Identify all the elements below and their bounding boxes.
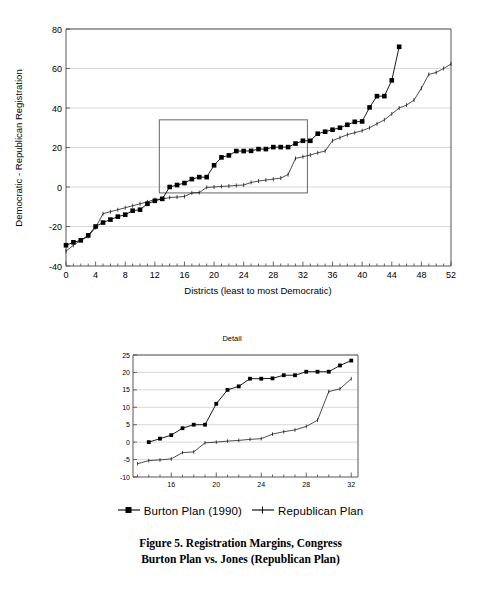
- data-point-marker: [382, 94, 387, 99]
- data-point-marker: [352, 120, 357, 125]
- data-point-marker: [278, 145, 283, 150]
- x-tick-label: 28: [302, 481, 310, 488]
- data-point-marker: [338, 125, 343, 130]
- legend-label-republican: Republican Plan: [278, 505, 363, 517]
- y-tick-label: 15: [122, 386, 130, 393]
- data-point-marker: [330, 127, 335, 132]
- data-point-marker: [167, 185, 172, 190]
- data-point-marker: [271, 376, 275, 380]
- data-point-marker: [212, 163, 217, 168]
- detail-chart: Detail 1620242832-10-50510152025: [0, 325, 481, 500]
- data-point-marker: [169, 433, 173, 437]
- detail-chart-title: Detail: [222, 334, 242, 343]
- x-tick-label: 20: [209, 270, 219, 280]
- x-tick-label: 8: [123, 270, 128, 280]
- data-point-marker: [349, 359, 353, 363]
- data-point-marker: [226, 388, 230, 392]
- x-tick-label: 20: [212, 481, 220, 488]
- detail-chart-svg: Detail 1620242832-10-50510152025: [0, 325, 481, 500]
- chart-legend: Burton Plan (1990) Republican Plan: [0, 505, 481, 517]
- data-point-marker: [147, 440, 151, 444]
- data-point-marker: [123, 212, 128, 217]
- data-point-marker: [286, 145, 291, 150]
- data-point-marker: [181, 426, 185, 430]
- data-point-marker: [389, 78, 394, 83]
- data-point-marker: [234, 149, 239, 154]
- series-line-2: [138, 379, 352, 464]
- data-point-marker: [397, 44, 402, 49]
- y-tick-label: 5: [126, 421, 130, 428]
- y-tick-label: 60: [52, 64, 62, 74]
- data-point-marker: [304, 370, 308, 374]
- data-point-marker: [192, 423, 196, 427]
- x-tick-label: 32: [347, 481, 355, 488]
- data-point-marker: [271, 145, 276, 150]
- data-point-marker: [308, 138, 313, 143]
- data-point-marker: [282, 373, 286, 377]
- x-tick-label: 0: [63, 270, 68, 280]
- square-line-marker-icon: [118, 505, 140, 517]
- data-point-marker: [375, 94, 380, 99]
- y-tick-label: 40: [52, 104, 62, 114]
- y-tick-label: 20: [52, 143, 62, 153]
- data-point-marker: [197, 175, 202, 180]
- y-tick-label: 25: [122, 352, 130, 359]
- x-tick-label: 28: [268, 270, 278, 280]
- data-point-marker: [259, 377, 263, 381]
- data-point-marker: [264, 147, 269, 152]
- data-point-marker: [316, 370, 320, 374]
- series-line-2: [66, 64, 451, 251]
- detail-gridlines: [133, 355, 358, 460]
- x-tick-label: 32: [298, 270, 308, 280]
- data-point-marker: [214, 402, 218, 406]
- detail-plot-frame: [133, 355, 358, 477]
- data-point-marker: [130, 208, 135, 213]
- x-tick-label: 36: [328, 270, 338, 280]
- data-point-marker: [237, 384, 241, 388]
- data-point-marker: [345, 122, 350, 127]
- x-tick-label: 44: [387, 270, 397, 280]
- main-x-axis-label: Districts (least to most Democratic): [184, 285, 331, 296]
- data-point-marker: [158, 437, 162, 441]
- detail-series-group: [138, 359, 354, 466]
- data-point-marker: [64, 243, 69, 248]
- data-point-marker: [338, 364, 342, 368]
- x-tick-label: 16: [179, 270, 189, 280]
- x-tick-label: 4: [93, 270, 98, 280]
- x-tick-label: 24: [239, 270, 249, 280]
- figure-page: 0481216202428323640444852-40-20020406080…: [0, 0, 481, 596]
- y-tick-label: 80: [52, 25, 62, 35]
- data-point-marker: [323, 129, 328, 134]
- main-gridlines: [66, 29, 451, 227]
- data-point-marker: [327, 370, 331, 374]
- detail-inset-rectangle: [159, 120, 307, 193]
- data-point-marker: [293, 141, 298, 146]
- data-point-marker: [301, 138, 306, 143]
- legend-label-burton: Burton Plan (1990): [144, 505, 242, 517]
- data-point-marker: [138, 207, 143, 212]
- data-point-marker: [108, 217, 113, 222]
- x-tick-label: 16: [167, 481, 175, 488]
- data-point-marker: [315, 131, 320, 136]
- caption-line-1: Figure 5. Registration Margins, Congress: [0, 536, 481, 552]
- main-chart: 0481216202428323640444852-40-20020406080…: [0, 0, 481, 310]
- x-tick-label: 40: [357, 270, 367, 280]
- x-tick-label: 48: [416, 270, 426, 280]
- data-point-marker: [190, 177, 195, 182]
- y-tick-label: -10: [120, 474, 130, 481]
- y-tick-label: -20: [49, 222, 62, 232]
- plain-line-marker-icon: [252, 505, 274, 517]
- data-point-marker: [249, 149, 254, 154]
- series-line-1: [149, 361, 352, 443]
- x-tick-label: 12: [150, 270, 160, 280]
- legend-item-burton: Burton Plan (1990): [118, 505, 242, 517]
- y-tick-label: 0: [57, 183, 62, 193]
- data-point-marker: [116, 214, 121, 219]
- data-point-marker: [241, 149, 246, 154]
- data-point-marker: [175, 183, 180, 188]
- data-point-marker: [219, 155, 224, 160]
- caption-line-2: Burton Plan vs. Jones (Republican Plan): [0, 552, 481, 568]
- data-point-marker: [256, 147, 261, 152]
- y-tick-label: 10: [122, 404, 130, 411]
- x-tick-label: 52: [446, 270, 456, 280]
